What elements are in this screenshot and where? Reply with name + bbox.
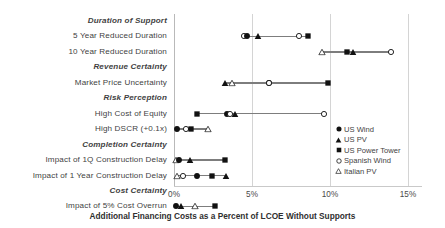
category-group-label: Risk Perception [104, 93, 167, 102]
legend-label: US PV [344, 135, 367, 144]
data-point-marker [320, 110, 327, 117]
category-label: High Cost of Equity [95, 109, 167, 118]
data-point-marker [254, 33, 262, 40]
filled-square-icon [333, 147, 344, 153]
legend-label: US Power Tower [344, 146, 400, 155]
x-axis-title: Additional Financing Costs as a Percent … [0, 211, 445, 221]
category-label: Market Price Uncertainty [75, 78, 167, 87]
data-point-marker [295, 33, 302, 40]
data-point-marker [176, 157, 183, 164]
data-point-marker [177, 203, 185, 210]
data-point-marker [194, 110, 201, 117]
x-axis-tick-label: 15% [400, 190, 416, 199]
x-axis-line [174, 186, 422, 187]
data-point-marker [305, 33, 312, 40]
legend-item[interactable]: Spanish Wind [333, 156, 438, 167]
data-point-marker [222, 157, 229, 164]
data-point-marker [209, 172, 216, 179]
open-triangle-icon [333, 168, 344, 174]
filled-triangle-icon [333, 137, 344, 143]
data-point-marker [188, 126, 195, 133]
category-label: Impact of 5% Cost Overrun [66, 201, 167, 210]
data-point-marker [174, 126, 181, 133]
filled-circle-icon [333, 126, 344, 132]
range-connector [197, 113, 323, 115]
category-label: Impact of 1Q Construction Delay [45, 155, 167, 164]
data-point-marker [193, 172, 200, 179]
data-point-marker [387, 48, 394, 55]
range-connector [176, 159, 226, 161]
legend-label: Italian PV [344, 167, 377, 176]
data-point-marker [228, 79, 236, 86]
legend-label: US Wind [344, 125, 374, 134]
open-circle-icon [333, 158, 344, 164]
category-group-label: Completion Certainty [82, 140, 167, 149]
legend-item[interactable]: US Wind [333, 124, 438, 135]
category-group-label: Cost Certainty [110, 186, 167, 195]
gridline [330, 14, 331, 186]
data-point-marker [318, 48, 326, 55]
data-point-marker [231, 110, 239, 117]
data-point-marker [325, 79, 332, 86]
legend-item[interactable]: Italian PV [333, 166, 438, 177]
data-point-marker [222, 172, 230, 179]
data-point-marker [349, 48, 357, 55]
data-point-marker [211, 203, 218, 210]
x-axis-tick-label: 0% [168, 190, 180, 199]
chart-legend: US WindUS PVUS Power TowerSpanish WindIt… [333, 124, 438, 177]
data-point-marker [179, 172, 186, 179]
category-label: 5 Year Reduced Duration [73, 31, 167, 40]
data-point-marker [244, 33, 251, 40]
category-label: Impact of 1 Year Construction Delay [33, 171, 167, 180]
category-group-label: Revenue Certainty [93, 62, 167, 71]
category-group-label: Duration of Support [88, 16, 167, 25]
data-point-marker [186, 157, 194, 164]
data-point-marker [266, 79, 273, 86]
financing-costs-chart: Duration of Support5 Year Reduced Durati… [0, 0, 445, 228]
range-connector [225, 82, 328, 84]
legend-item[interactable]: US PV [333, 135, 438, 146]
category-label: 10 Year Reduced Duration [68, 47, 167, 56]
gridline [252, 14, 253, 186]
category-labels: Duration of Support5 Year Reduced Durati… [0, 0, 171, 228]
x-axis-tick-label: 10% [322, 190, 338, 199]
legend-label: Spanish Wind [344, 156, 391, 165]
category-label: High DSCR (+0.1x) [95, 124, 167, 133]
x-axis-tick-label: 5% [246, 190, 258, 199]
data-point-marker [191, 203, 199, 210]
legend-item[interactable]: US Power Tower [333, 145, 438, 156]
data-point-marker [204, 126, 212, 133]
